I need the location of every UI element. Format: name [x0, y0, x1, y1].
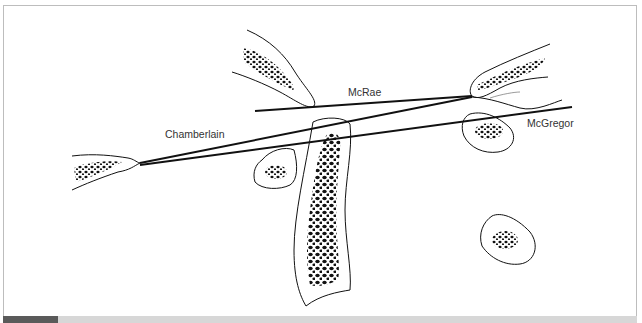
chamberlain-label: Chamberlain	[165, 128, 225, 140]
bottom-bar-accent	[3, 316, 58, 323]
craniovertebral-diagram	[0, 0, 642, 323]
dens-axis	[294, 118, 351, 306]
bottom-bar	[3, 316, 637, 323]
hard-palate-shape	[72, 155, 140, 190]
anterior-arch-atlas	[254, 148, 297, 188]
mcrae-label: McRae	[348, 86, 381, 98]
spinous-process	[481, 215, 536, 265]
clivus-shape	[232, 30, 315, 107]
occipital-shape	[470, 44, 562, 109]
mcgregor-label: McGregor	[527, 117, 574, 129]
